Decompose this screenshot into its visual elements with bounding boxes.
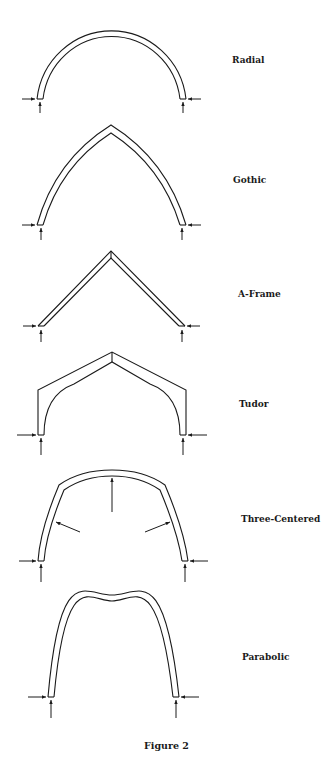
- gothic-forces: [22, 225, 201, 240]
- parabolic-arch: [48, 591, 179, 697]
- radial-forces: [22, 99, 201, 113]
- label-three-centered: Three-Centered: [241, 514, 320, 524]
- three-centered-arch: [38, 470, 188, 561]
- label-radial: Radial: [232, 55, 264, 65]
- figure-2-arch-types: Radial Gothic A-Frame Tudor Three-Center…: [0, 0, 333, 764]
- radial-load-arrow-right-icon: [145, 522, 170, 532]
- figure-caption: Figure 2: [0, 740, 333, 751]
- label-tudor: Tudor: [239, 399, 268, 409]
- parabolic-forces: [28, 697, 199, 718]
- label-a-frame: A-Frame: [238, 289, 281, 299]
- a-frame-forces: [23, 326, 200, 342]
- label-gothic: Gothic: [233, 175, 266, 185]
- arch-diagram: [0, 0, 333, 764]
- gothic-arch: [37, 125, 186, 225]
- three-centered-forces: [19, 478, 208, 582]
- radial-load-arrow-left-icon: [56, 522, 80, 532]
- label-parabolic: Parabolic: [242, 652, 290, 662]
- a-frame-arch: [38, 251, 185, 326]
- tudor-arch: [38, 352, 186, 435]
- radial-arch: [37, 31, 186, 99]
- tudor-forces: [17, 435, 207, 455]
